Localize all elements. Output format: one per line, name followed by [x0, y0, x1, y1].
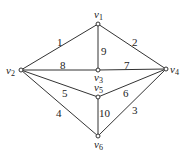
edge-7 — [98, 69, 166, 70]
node-v2 — [19, 68, 23, 72]
graph-diagram: 1 2 3 4 5 6 7 8 9 10 v1 v2 v3 v4 v5 v6 — [0, 0, 188, 157]
edge-label-4: 4 — [56, 107, 62, 119]
edge-label-3: 3 — [132, 104, 138, 116]
edge-4 — [21, 70, 98, 136]
edge-6 — [98, 69, 166, 97]
node-label-v4: v4 — [170, 63, 179, 77]
graph-svg: 1 2 3 4 5 6 7 8 9 10 v1 v2 v3 v4 v5 v6 — [0, 0, 188, 157]
edge-label-7: 7 — [124, 59, 130, 71]
edge-3 — [98, 69, 166, 136]
node-label-v2: v2 — [6, 64, 15, 78]
edge-label-9: 9 — [101, 45, 107, 57]
edge-5 — [21, 70, 98, 97]
edge-label-5: 5 — [62, 87, 68, 99]
edge-label-6: 6 — [123, 87, 129, 99]
edge-label-2: 2 — [132, 36, 138, 48]
node-v4 — [164, 67, 168, 71]
node-label-v6: v6 — [94, 138, 103, 152]
edge-label-1: 1 — [57, 36, 63, 48]
node-v1 — [96, 22, 100, 26]
edge-label-8: 8 — [60, 59, 66, 71]
node-v5 — [96, 95, 100, 99]
node-label-v1: v1 — [94, 8, 103, 22]
edge-label-10: 10 — [99, 107, 111, 119]
